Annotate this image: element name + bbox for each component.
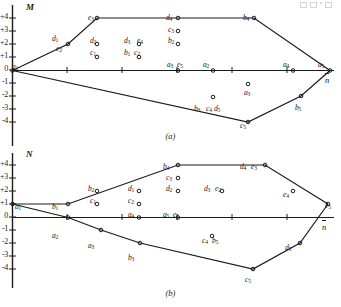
y-tick-b-7: -3 [0, 250, 8, 259]
point-label: d4 [240, 162, 246, 171]
point-label: e5 [325, 201, 331, 210]
point-label: b1 [124, 48, 130, 57]
point-label: d5 [214, 104, 220, 113]
point-label: a2 [203, 60, 209, 69]
chart-svg-a [0, 0, 341, 150]
point-label: c2 [128, 196, 134, 205]
point-label: e4 [137, 36, 143, 45]
y-tick-a-0: +4 [0, 12, 8, 21]
y-tick-a-2: +2 [0, 38, 8, 47]
x-axis-label-b-text: n [322, 222, 326, 232]
point-label: e2 [56, 44, 62, 53]
y-tick-b-0: +4 [0, 159, 8, 168]
point-label: a2 [52, 231, 58, 240]
y-tick-a-8: -4 [0, 116, 8, 125]
y-tick-a-6: -2 [0, 90, 8, 99]
point-label: a3 [167, 60, 173, 69]
point-label: e4 [283, 190, 289, 199]
y-tick-a-7: -3 [0, 103, 8, 112]
point-label: b5 [212, 236, 218, 245]
point-label: d1 [128, 184, 134, 193]
point-label: e5 [177, 60, 183, 69]
point-label: c3 [168, 25, 174, 34]
point-label: d2 [166, 184, 172, 193]
y-tick-a-5: -1 [0, 77, 8, 86]
point-label: a3 [244, 88, 250, 97]
lower-envelope-b [13, 204, 329, 269]
point-label: b2 [88, 184, 94, 193]
chart-panel-a: M +4 +3 +2 +1 0 -1 -2 -3 -4 n d1e2e3d2c1… [0, 0, 341, 150]
point-label: d4 [166, 13, 172, 22]
x-axis-label-a-text: n [325, 75, 329, 85]
point-label: a5 [318, 60, 324, 69]
caption-b: (b) [0, 288, 341, 298]
y-tick-b-1: +3 [0, 172, 8, 181]
y-tick-b-5: -1 [0, 224, 8, 233]
chart-svg-b [0, 148, 341, 307]
point-label: c3 [166, 173, 172, 182]
caption-a: (a) [0, 131, 341, 141]
y-axis-label-b: N [26, 149, 33, 159]
point-label: d3 [124, 36, 130, 45]
lower-envelope-a [13, 71, 331, 123]
y-tick-a-4: 0 [0, 64, 8, 73]
point-label: c2 [134, 48, 140, 57]
point-label: c1 [90, 48, 96, 57]
y-tick-b-6: -2 [0, 237, 8, 246]
y-tick-b-3: +1 [0, 198, 8, 207]
chart-panel-b: N +4 +3 +2 +1 0 -1 -2 -3 -4 n a1b1b2c1d1… [0, 148, 341, 307]
point-label: c5 [240, 121, 246, 130]
point-label: b2 [168, 36, 174, 45]
point-label: c1 [90, 196, 96, 205]
y-tick-a-1: +3 [0, 25, 8, 34]
point-label: b4 [163, 162, 169, 171]
point-label: c4 [202, 236, 208, 245]
x-axis-label-a: n [325, 73, 329, 85]
point-label: b1 [52, 202, 58, 211]
y-tick-b-4: 0 [0, 211, 8, 220]
point-label: e1 [173, 210, 179, 219]
point-label: a4 [283, 60, 289, 69]
point-label: d3 [204, 184, 210, 193]
point-label: c5 [245, 275, 251, 284]
figure-container: M +4 +3 +2 +1 0 -1 -2 -3 -4 n d1e2e3d2c1… [0, 0, 341, 307]
point-label: d1 [52, 34, 58, 43]
point-label: a1 [12, 62, 18, 71]
plot-area-b: N +4 +3 +2 +1 0 -1 -2 -3 -4 n a1b1b2c1d1… [0, 148, 341, 307]
x-axis-label-b: n [322, 220, 326, 232]
y-tick-a-3: +1 [0, 51, 8, 60]
point-label: e3 [251, 162, 257, 171]
plot-area-a: M +4 +3 +2 +1 0 -1 -2 -3 -4 n d1e2e3d2c1… [0, 0, 341, 150]
point-label: b5 [295, 103, 301, 112]
point-label: e3 [88, 13, 94, 22]
point-label: a3 [88, 241, 94, 250]
point-label: b3 [128, 253, 134, 262]
y-tick-b-2: +2 [0, 185, 8, 194]
point-label: b4 [243, 13, 249, 22]
y-axis-label-a: M [26, 2, 34, 12]
y-tick-b-8: -4 [0, 263, 8, 272]
point-label: e2 [215, 184, 221, 193]
point-label: a4 [128, 210, 134, 219]
point-label: c4 [206, 104, 212, 113]
point-label: b3 [194, 104, 200, 113]
point-label: a1 [15, 202, 21, 211]
point-label: d5 [285, 243, 291, 252]
point-label: d2 [90, 36, 96, 45]
point-label: a5 [163, 210, 169, 219]
